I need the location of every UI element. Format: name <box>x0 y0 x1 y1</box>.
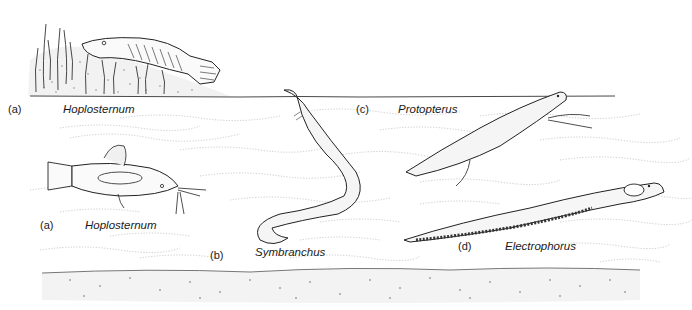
bottom-sediment <box>42 268 640 303</box>
species-label-protopterus: Protopterus <box>398 103 457 115</box>
panel-letter-a-top: (a) <box>8 103 21 115</box>
species-label-symbranchus: Symbranchus <box>255 246 325 258</box>
hoplosternum-swimming <box>48 145 206 214</box>
panel-letter-c: (c) <box>356 103 369 115</box>
symbranchus-eel <box>258 90 361 244</box>
species-label-hoplosternum-bottom: Hoplosternum <box>85 219 157 231</box>
figure-illustration: (a) Hoplosternum (a) Hoplosternum (b) Sy… <box>0 0 692 310</box>
panel-letter-a-bottom: (a) <box>40 219 53 231</box>
water-surface-line <box>30 96 615 97</box>
electrophorus-eel <box>404 183 664 242</box>
panel-letter-d: (d) <box>458 240 471 252</box>
scene-drawing <box>0 0 692 310</box>
species-label-hoplosternum-top: Hoplosternum <box>63 103 135 115</box>
species-label-electrophorus: Electrophorus <box>505 240 576 252</box>
muddy-bank <box>28 24 230 96</box>
panel-letter-b: (b) <box>210 249 223 261</box>
